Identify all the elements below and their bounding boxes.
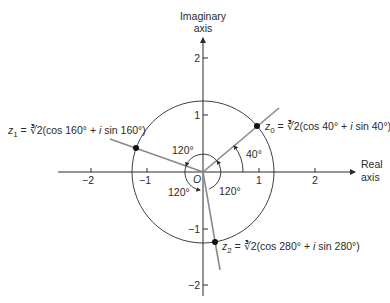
origin-label: O — [193, 173, 201, 185]
x-tick-label: 1 — [256, 174, 262, 186]
label-z0: z0 = ∛2(cos 40° + i sin 40°) — [264, 120, 390, 135]
imaginary-axis-label: Imaginary — [180, 10, 227, 22]
imaginary-axis-label: axis — [194, 22, 213, 34]
x-tick-label: 2 — [312, 174, 318, 186]
angle-label-40: 40° — [246, 148, 262, 160]
y-tick-label: −2 — [188, 279, 200, 291]
real-axis-label: Real — [361, 158, 383, 170]
y-tick-label: 2 — [194, 52, 200, 64]
label-z1: z1 = ∛2(cos 160° + i sin 160°) — [7, 124, 146, 139]
point-z1 — [133, 145, 139, 151]
angle-arc-40 — [234, 146, 243, 172]
ray-z0 — [203, 108, 279, 172]
point-z2 — [212, 239, 218, 245]
x-tick-label: −1 — [139, 174, 151, 186]
angle-label-120-left: 120° — [168, 186, 190, 198]
angle-label-120-top: 120° — [172, 144, 194, 156]
angle-label-120-right: 120° — [219, 185, 241, 197]
complex-plane-diagram: −2 −1 1 2 2 1 −1 −2 Imaginary axis Real … — [0, 0, 390, 303]
x-tick-label: −2 — [82, 174, 94, 186]
real-axis-label: axis — [361, 171, 380, 183]
label-z2: z2 = ∛2(cos 280° + i sin 280°) — [221, 240, 360, 255]
y-tick-label: 1 — [194, 109, 200, 121]
ray-z2 — [203, 172, 220, 270]
y-tick-label: −1 — [188, 223, 200, 235]
point-z0 — [254, 123, 260, 129]
